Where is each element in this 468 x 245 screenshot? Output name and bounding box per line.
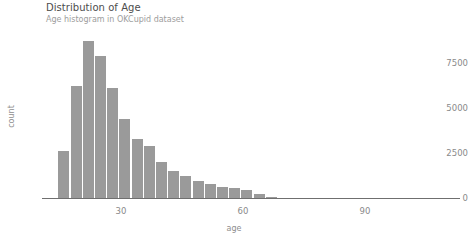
histogram-bar <box>71 86 82 198</box>
histogram-bar <box>180 176 191 199</box>
histogram-bar <box>132 139 143 198</box>
histogram-bar <box>95 56 106 198</box>
histogram-bar <box>83 41 94 198</box>
x-tick-label: 30 <box>116 206 127 216</box>
histogram-bar <box>217 187 228 198</box>
histogram-bar <box>58 151 69 198</box>
histogram-bar <box>241 190 252 198</box>
x-axis-title: age <box>0 224 468 233</box>
bars-layer <box>0 0 468 198</box>
histogram-bar <box>144 146 155 198</box>
histogram-bar <box>205 184 216 198</box>
age-histogram-chart: Distribution of Age Age histogram in OKC… <box>0 0 468 245</box>
histogram-bar <box>107 88 118 198</box>
histogram-bar <box>193 181 204 198</box>
histogram-bar <box>229 188 240 198</box>
histogram-bar <box>156 162 167 198</box>
x-tick-label: 90 <box>360 206 371 216</box>
histogram-bar <box>119 119 130 198</box>
x-axis-line <box>46 198 460 199</box>
x-tick-label: 60 <box>238 206 249 216</box>
histogram-bar <box>168 171 179 198</box>
